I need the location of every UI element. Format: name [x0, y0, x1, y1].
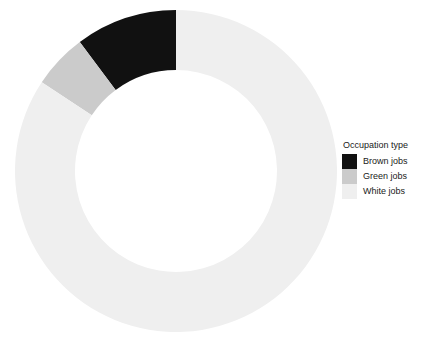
legend-item-label: Brown jobs — [357, 154, 408, 169]
legend-item-list: Brown jobsGreen jobsWhite jobs — [342, 154, 428, 199]
legend-item-label: Green jobs — [357, 169, 407, 184]
legend-swatch-icon — [342, 169, 357, 184]
legend-swatch-icon — [342, 154, 357, 169]
legend-swatch-icon — [342, 184, 357, 199]
legend-item[interactable]: Green jobs — [342, 169, 428, 184]
legend-item[interactable]: Brown jobs — [342, 154, 428, 169]
donut-chart: Occupation type Brown jobsGreen jobsWhit… — [0, 0, 428, 339]
chart-legend: Occupation type Brown jobsGreen jobsWhit… — [342, 139, 428, 199]
donut-slice-group — [15, 10, 337, 332]
legend-item[interactable]: White jobs — [342, 184, 428, 199]
legend-title: Occupation type — [342, 139, 428, 151]
legend-item-label: White jobs — [357, 184, 405, 199]
